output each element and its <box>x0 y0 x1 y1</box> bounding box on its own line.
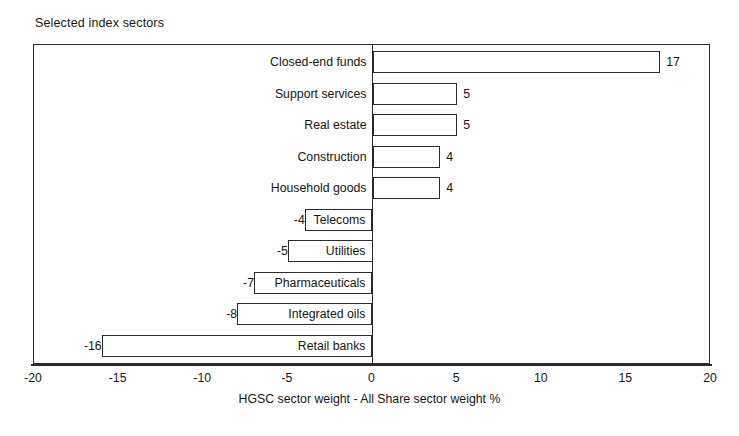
x-axis-title: HGSC sector weight - All Share sector we… <box>0 392 739 406</box>
bar-value-label: 5 <box>457 114 503 136</box>
bar[interactable] <box>305 209 373 231</box>
x-tick-label: 20 <box>703 371 717 385</box>
x-tick-label: 10 <box>534 371 548 385</box>
x-axis: -20-15-10-505101520 <box>33 364 710 366</box>
bar[interactable] <box>373 51 661 73</box>
bar[interactable] <box>237 303 372 325</box>
bar-value-label: -16 <box>58 335 109 357</box>
bar-row: Support services5 <box>34 83 709 105</box>
bar-category-label: Construction <box>34 146 373 168</box>
bar-value-label: -4 <box>261 209 312 231</box>
bar[interactable] <box>373 83 458 105</box>
bar-value-label: -7 <box>210 272 261 294</box>
chart-title: Selected index sectors <box>35 16 164 30</box>
bar[interactable] <box>254 272 372 294</box>
x-tick-label: -5 <box>281 371 292 385</box>
bar-row: Utilities-5 <box>34 240 709 262</box>
x-tick-label: -15 <box>109 371 127 385</box>
bar-value-label: 5 <box>457 83 503 105</box>
bar[interactable] <box>373 114 458 136</box>
x-tick-label: 0 <box>368 371 375 385</box>
plot-area: Closed-end funds17Support services5Real … <box>33 44 710 364</box>
x-axis-line <box>31 364 712 366</box>
bar-category-label: Closed-end funds <box>34 51 373 73</box>
bar-row: Closed-end funds17 <box>34 51 709 73</box>
bar-row: Pharmaceuticals-7 <box>34 272 709 294</box>
x-tick-label: 15 <box>619 371 633 385</box>
bar-row: Integrated oils-8 <box>34 303 709 325</box>
bar[interactable] <box>288 240 373 262</box>
bar[interactable] <box>102 335 373 357</box>
bar-row: Retail banks-16 <box>34 335 709 357</box>
bar-value-label: 4 <box>440 146 486 168</box>
x-tick-label: 5 <box>453 371 460 385</box>
bar[interactable] <box>373 177 441 199</box>
x-tick-label: -10 <box>193 371 211 385</box>
bar-value-label: -8 <box>193 303 244 325</box>
plot-inner: Closed-end funds17Support services5Real … <box>34 45 709 363</box>
bar-category-label: Real estate <box>34 114 373 136</box>
x-tick-label: -20 <box>24 371 42 385</box>
bar-value-label: 17 <box>660 51 706 73</box>
bar-category-label: Household goods <box>34 177 373 199</box>
bar-row: Household goods4 <box>34 177 709 199</box>
bar-row: Construction4 <box>34 146 709 168</box>
bar-row: Real estate5 <box>34 114 709 136</box>
bar-row: Telecoms-4 <box>34 209 709 231</box>
bar[interactable] <box>373 146 441 168</box>
bar-value-label: -5 <box>244 240 295 262</box>
chart-page: Selected index sectors Closed-end funds1… <box>0 0 739 436</box>
bar-value-label: 4 <box>440 177 486 199</box>
bar-category-label: Support services <box>34 83 373 105</box>
